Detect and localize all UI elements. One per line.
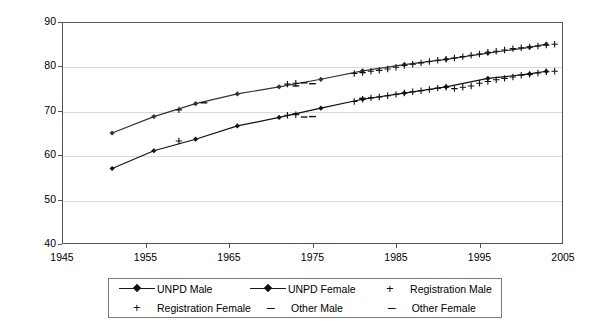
legend-row-2: + Registration Female – Other Male – Oth… — [109, 298, 501, 317]
legend-label: Other Male — [291, 302, 343, 314]
y-tick-label: 60 — [22, 149, 56, 159]
legend-label: UNPD Female — [288, 283, 356, 295]
dash-icon: – — [251, 302, 291, 314]
x-tick-label: 1945 — [37, 252, 87, 262]
legend-item-registration-male[interactable]: + Registration Male — [370, 279, 501, 298]
x-tick-label: 1995 — [455, 252, 505, 262]
y-tick-label: 80 — [22, 60, 56, 70]
chart-container: 908070605040 194519551965197519851995200… — [0, 0, 607, 334]
gridline — [63, 67, 562, 68]
x-tick-mark — [229, 244, 230, 248]
plot-area — [62, 22, 563, 244]
legend-label: UNPD Male — [157, 283, 212, 295]
legend-item-unpd-male[interactable]: UNPD Male — [109, 279, 248, 298]
legend-item-registration-female[interactable]: + Registration Female — [109, 298, 251, 317]
legend-item-other-female[interactable]: – Other Female — [372, 298, 501, 317]
legend-row-1: UNPD Male UNPD Female + Registration Mal… — [109, 279, 501, 298]
x-tick-mark — [146, 244, 147, 248]
legend-label: Registration Male — [410, 283, 492, 295]
x-tick-mark — [480, 244, 481, 248]
legend-item-unpd-female[interactable]: UNPD Female — [248, 279, 370, 298]
legend-label: Other Female — [412, 302, 476, 314]
y-tick-label: 50 — [22, 194, 56, 204]
y-tick-label: 70 — [22, 105, 56, 115]
x-tick-label: 1955 — [121, 252, 171, 262]
chart-legend: UNPD Male UNPD Female + Registration Mal… — [108, 278, 502, 318]
y-tick-label: 90 — [22, 16, 56, 26]
dash-icon: – — [372, 302, 412, 314]
x-tick-mark — [396, 244, 397, 248]
line-diamond-icon — [248, 283, 288, 295]
gridline — [63, 156, 562, 157]
legend-item-other-male[interactable]: – Other Male — [251, 298, 372, 317]
y-tick-mark — [58, 244, 62, 245]
legend-label: Registration Female — [157, 302, 251, 314]
x-tick-label: 1965 — [204, 252, 254, 262]
gridline — [63, 112, 562, 113]
x-tick-mark — [313, 244, 314, 248]
x-tick-label: 2005 — [538, 252, 588, 262]
x-tick-label: 1985 — [371, 252, 421, 262]
line-diamond-icon — [117, 283, 157, 295]
x-tick-label: 1975 — [288, 252, 338, 262]
y-tick-label: 40 — [22, 238, 56, 248]
plus-icon: + — [370, 283, 410, 295]
gridline — [63, 201, 562, 202]
plus-icon: + — [117, 302, 157, 314]
